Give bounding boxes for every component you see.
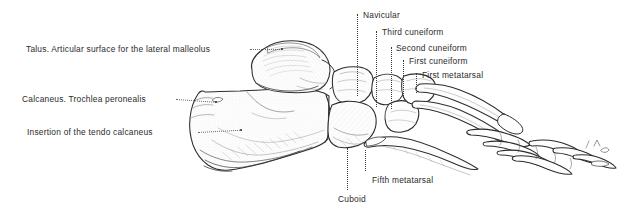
bone-phalanges xyxy=(467,129,616,174)
label-second-cuneiform: Second cuneiform xyxy=(396,43,467,53)
label-calcaneus-trochlea: Calcaneus. Trochlea peronealis xyxy=(22,94,146,104)
bone-navicular xyxy=(332,67,373,104)
label-first-cuneiform: First cuneiform xyxy=(409,56,468,66)
leader-dot-talus xyxy=(281,48,283,50)
label-tendo-calcaneus: Insertion of the tendo calcaneus xyxy=(27,127,153,137)
label-first-metatarsal: First metatarsal xyxy=(422,70,483,80)
label-cuboid: Cuboid xyxy=(338,194,366,204)
bone-fifth-metatarsal xyxy=(364,137,478,175)
leader-dot-calcaneus-trochlea xyxy=(215,101,217,103)
bone-third-cuneiform xyxy=(372,74,404,105)
label-fifth-metatarsal: Fifth metatarsal xyxy=(372,175,433,185)
bone-talus xyxy=(251,41,335,93)
label-third-cuneiform: Third cuneiform xyxy=(382,27,443,37)
label-navicular: Navicular xyxy=(363,10,400,20)
label-talus: Talus. Articular surface for the lateral… xyxy=(26,44,210,54)
foot-skeleton-figure: Talus. Articular surface for the lateral… xyxy=(0,0,628,215)
bone-calcaneus xyxy=(190,89,330,170)
leader-dot-tendo-calcaneus xyxy=(240,129,242,131)
foot-skeleton-illustration xyxy=(0,0,628,215)
